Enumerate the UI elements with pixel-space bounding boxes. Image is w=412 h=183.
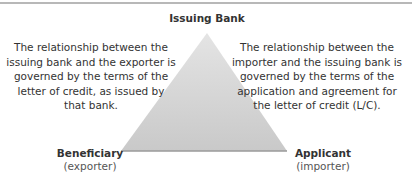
node-issuing-bank: Issuing Bank (157, 12, 257, 25)
applicant-title: Applicant (283, 147, 363, 160)
node-applicant: Applicant (importer) (283, 147, 363, 173)
issuing-bank-title: Issuing Bank (157, 12, 257, 25)
node-beneficiary: Beneficiary (exporter) (50, 147, 130, 173)
beneficiary-subtitle: (exporter) (50, 160, 130, 173)
description-importer-issuer: The relationship between the importer an… (228, 40, 406, 113)
description-issuer-exporter: The relationship between the issuing ban… (6, 40, 176, 113)
applicant-subtitle: (importer) (283, 160, 363, 173)
beneficiary-title: Beneficiary (50, 147, 130, 160)
